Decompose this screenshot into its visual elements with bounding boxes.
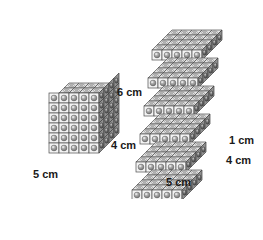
layer-slab (136, 142, 206, 172)
layer-slab (140, 114, 210, 144)
solid-prism-height-label: 6 cm (117, 86, 142, 98)
solid-prism-depth-label: 4 cm (111, 139, 136, 151)
layer-height-label: 1 cm (229, 134, 254, 146)
solid-prism-width-label: 5 cm (33, 168, 58, 180)
layer-slab (144, 86, 214, 116)
solid-prism-front-face (49, 93, 99, 153)
layer-slab (152, 30, 222, 60)
solid-prism (49, 73, 119, 153)
layer-slab (148, 58, 218, 88)
layered-prism (132, 30, 222, 199)
layered-prism-width-label: 5 cm (166, 176, 191, 188)
layered-prism-depth-label: 4 cm (226, 154, 251, 166)
